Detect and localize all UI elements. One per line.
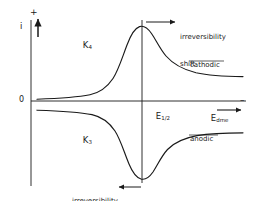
positive-sign-label: +	[30, 8, 38, 17]
potential-subscript: dme	[216, 117, 228, 123]
cathodic-branch-label: cathodic	[190, 62, 220, 69]
anodic-branch-label: anodic	[190, 136, 213, 143]
irreversibility-shift-bottom-label: irreversibility shift	[72, 179, 118, 201]
current-axis-label: i	[20, 22, 22, 31]
irreversibility-top-line1: irreversibility	[180, 33, 226, 42]
potential-axis-label: Edme	[200, 105, 228, 132]
half-wave-potential-label: E1/2	[145, 103, 170, 129]
half-wave-subscript: 1/2	[161, 114, 170, 120]
irreversibility-shift-top-label: irreversibility shift	[180, 15, 226, 87]
irreversibility-bottom-line1: irreversibility	[72, 197, 118, 201]
polarogram-figure: + i 0 K4 K3 irreversibility shift irreve…	[0, 0, 254, 201]
negative-sign-label: –	[240, 96, 245, 105]
lower-region-label: K3	[72, 127, 92, 154]
upper-region-subscript: 4	[88, 44, 92, 50]
lower-region-subscript: 3	[88, 139, 92, 145]
origin-label: 0	[19, 96, 24, 104]
upper-region-label: K4	[72, 32, 92, 59]
